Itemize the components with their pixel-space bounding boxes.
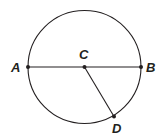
point-a [26,65,30,69]
circle-diagram: A B C D [0,0,160,138]
point-d [112,115,116,119]
label-b: B [146,60,155,75]
point-c [83,65,87,69]
point-b [139,65,143,69]
label-c: C [79,47,89,62]
label-a: A [10,60,20,75]
label-d: D [112,121,122,136]
segment-cd [85,67,115,117]
